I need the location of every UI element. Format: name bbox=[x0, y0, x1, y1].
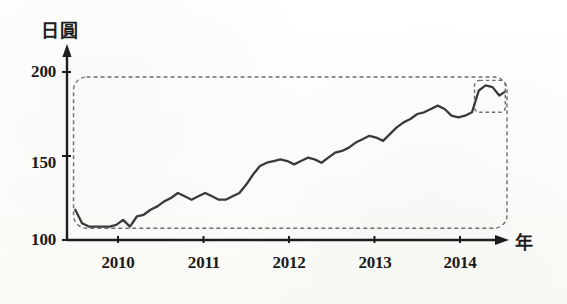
y-axis-title: 日圓 bbox=[41, 16, 78, 42]
x-axis-arrow-icon bbox=[495, 235, 509, 245]
chart-screenshot: 日圓 年 200 150 100 2010 2011 2012 2013 201… bbox=[0, 0, 567, 304]
full-range-highlight-box bbox=[74, 77, 507, 228]
recent-peak-highlight-box bbox=[475, 80, 506, 112]
x-axis-title: 年 bbox=[515, 228, 534, 254]
x-tick-label-2014: 2014 bbox=[430, 253, 490, 273]
y-axis-arrow-icon bbox=[62, 44, 71, 57]
x-tick-label-2013: 2013 bbox=[345, 253, 405, 273]
x-tick-label-2010: 2010 bbox=[88, 253, 148, 273]
x-tick-label-2012: 2012 bbox=[259, 253, 319, 273]
y-tick-label-200: 200 bbox=[12, 62, 56, 82]
exchange-rate-line bbox=[75, 85, 504, 226]
y-tick-label-100: 100 bbox=[12, 230, 56, 250]
y-tick-label-150: 150 bbox=[12, 153, 56, 173]
x-tick-label-2011: 2011 bbox=[174, 253, 234, 273]
